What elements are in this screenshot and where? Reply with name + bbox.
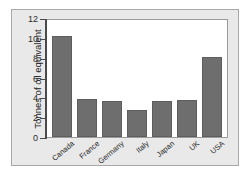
- y-tick-mark: [40, 118, 45, 119]
- bar-germany[interactable]: [102, 101, 122, 137]
- bar-canada[interactable]: [52, 36, 72, 137]
- bar-slot: [177, 20, 197, 137]
- bar-italy[interactable]: [127, 110, 147, 137]
- bar-slot: [102, 20, 122, 137]
- y-tick-label: 6: [8, 74, 38, 84]
- y-tick-mark: [40, 98, 45, 99]
- bar-slot: [52, 20, 72, 137]
- y-axis-line: [45, 19, 47, 139]
- bar-series: [47, 20, 227, 137]
- bar-slot: [77, 20, 97, 137]
- y-tick-mark: [40, 79, 45, 80]
- bar-slot: [127, 20, 147, 137]
- y-tick-mark: [40, 19, 45, 20]
- x-tick-label: USA: [209, 139, 227, 156]
- bar-slot: [152, 20, 172, 137]
- y-tick-label: 8: [8, 54, 38, 64]
- bar-usa[interactable]: [202, 57, 222, 137]
- bar-uk[interactable]: [177, 100, 197, 137]
- y-tick-label: 12: [8, 14, 38, 24]
- bar-slot: [202, 20, 222, 137]
- chart-figure: Tonnes of oil equivalent 024681012 Canad…: [11, 9, 239, 166]
- bar-japan[interactable]: [152, 101, 172, 137]
- y-tick-label: 2: [8, 113, 38, 123]
- x-tick-label: Italy: [134, 139, 150, 155]
- bar-france[interactable]: [77, 99, 97, 137]
- x-tick-label: Japan: [155, 139, 176, 159]
- y-tick-label: 10: [8, 34, 38, 44]
- x-tick-label: UK: [187, 139, 201, 153]
- x-axis-labels: CanadaFranceGermanyItalyJapanUKUSA: [46, 139, 228, 167]
- y-tick-mark: [40, 138, 45, 139]
- y-tick-mark: [40, 39, 45, 40]
- y-tick-label: 0: [8, 133, 38, 143]
- y-tick-mark: [40, 59, 45, 60]
- y-tick-label: 4: [8, 93, 38, 103]
- x-tick-label: Canada: [50, 139, 76, 163]
- x-tick-label: Germany: [96, 139, 125, 166]
- plot-area: [46, 19, 228, 138]
